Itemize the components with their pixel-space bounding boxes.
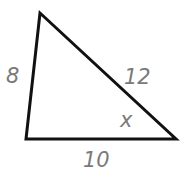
triangle-figure: 8 12 x 10 xyxy=(0,0,195,177)
triangle-shape xyxy=(26,13,176,139)
triangle-diagram: 8 12 x 10 xyxy=(0,0,195,177)
side-label-bottom: 10 xyxy=(83,148,110,172)
side-label-left: 8 xyxy=(6,64,19,88)
angle-label-x: x xyxy=(119,108,133,132)
side-label-hypotenuse: 12 xyxy=(124,65,151,89)
